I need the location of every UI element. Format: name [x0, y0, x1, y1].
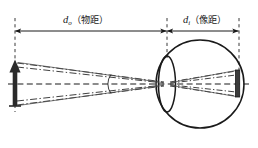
- retina-image-bar: [236, 70, 240, 97]
- label-image-distance: di（像距）: [183, 15, 226, 27]
- label-object-distance: do（物距）: [63, 15, 108, 27]
- image-distance-text: （像距）: [190, 14, 226, 25]
- object-distance-text: （物距）: [72, 14, 108, 25]
- optics-diagram-canvas: do（物距） di（像距）: [0, 0, 258, 148]
- object-arrow: [9, 60, 21, 107]
